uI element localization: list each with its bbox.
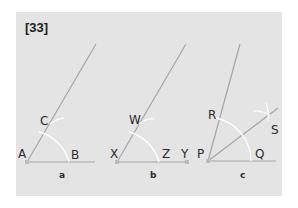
- arc-x: [129, 132, 159, 162]
- arc-mark-s2: [266, 103, 268, 121]
- arc-a: [39, 132, 69, 162]
- ray-xw: [117, 44, 186, 162]
- construction-c: P R Q S c: [197, 44, 279, 180]
- label-c: C: [40, 114, 48, 128]
- arc-p: [216, 118, 251, 161]
- label-r: R: [208, 108, 216, 122]
- ray-ac: [27, 44, 96, 162]
- label-w: W: [129, 113, 141, 127]
- label-p: P: [197, 147, 204, 161]
- construction-a: A C B a: [18, 44, 96, 180]
- label-q: Q: [255, 147, 264, 161]
- caption-b: b: [150, 170, 157, 180]
- label-a: A: [18, 147, 27, 161]
- construction-b: X W Z Y b: [110, 44, 189, 180]
- label-s: S: [271, 123, 279, 137]
- label-y: Y: [180, 147, 189, 161]
- bisector-ps: [208, 108, 278, 161]
- caption-a: a: [59, 170, 65, 180]
- ray-pr: [208, 44, 240, 161]
- caption-c: c: [240, 170, 245, 180]
- vertex-p-dot: [206, 159, 210, 163]
- label-x: X: [110, 147, 118, 161]
- label-z: Z: [162, 147, 170, 161]
- construction-diagram: A C B a X W Z Y b P R Q S c: [0, 0, 298, 208]
- label-b: B: [71, 148, 79, 162]
